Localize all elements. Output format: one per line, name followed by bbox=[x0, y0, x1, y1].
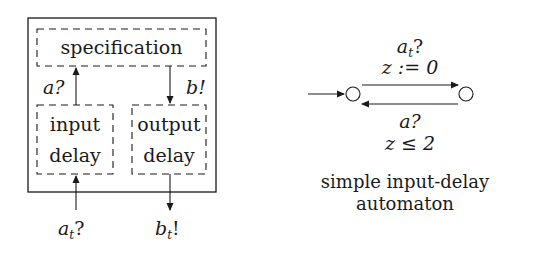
backward-transition-action: a? bbox=[390, 112, 430, 131]
backward-transition-guard: z ≤ 2 bbox=[370, 134, 450, 153]
output-delay-label-line1: output bbox=[132, 115, 206, 134]
internal-output-action: b! bbox=[186, 78, 206, 97]
forward-transition-update: z := 0 bbox=[370, 58, 450, 77]
automaton-caption-line1: simple input-delay bbox=[290, 171, 520, 193]
state-second bbox=[459, 87, 473, 101]
external-output-action: bt! bbox=[155, 219, 180, 241]
specification-label: specification bbox=[37, 38, 206, 57]
internal-input-action: a? bbox=[43, 78, 65, 97]
state-initial bbox=[346, 87, 360, 101]
automaton-caption-line2: automaton bbox=[290, 193, 520, 215]
output-delay-label-line2: delay bbox=[132, 146, 206, 165]
input-delay-label-line2: delay bbox=[37, 146, 113, 165]
external-input-action: at? bbox=[58, 219, 84, 241]
input-delay-label-line1: input bbox=[37, 115, 113, 134]
